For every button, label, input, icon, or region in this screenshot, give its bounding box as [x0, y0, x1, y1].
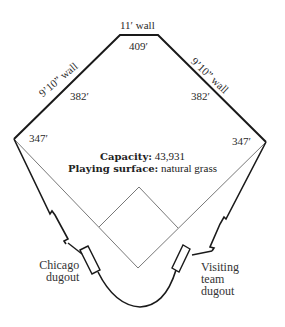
infield-diamond: [99, 187, 178, 228]
center-wall-height: 11′ wall: [120, 19, 155, 31]
surface-label: Playing surface:: [68, 163, 158, 174]
left-field-distance: 347′: [29, 132, 48, 144]
left-wall-connector: [68, 243, 82, 254]
home-dugout-label-line2: dugout: [39, 271, 79, 283]
backstop-wall: [98, 270, 176, 307]
left-center-distance: 382′: [70, 90, 89, 102]
right-field-distance: 347′: [232, 135, 251, 147]
surface-line: Playing surface: natural grass: [0, 162, 285, 175]
surface-value: natural grass: [161, 162, 217, 174]
visitor-dugout-label: Visiting team dugout: [201, 261, 239, 297]
home-dugout: [80, 246, 100, 274]
right-wall-connector: [192, 251, 212, 255]
home-dugout-label: Chicago dugout: [39, 259, 79, 283]
right-center-distance: 382′: [191, 90, 210, 102]
capacity-label: Capacity:: [100, 151, 152, 162]
visitor-dugout-label-line3: dugout: [201, 285, 239, 297]
center-field-distance: 409′: [129, 40, 148, 52]
visitor-dugout: [172, 245, 190, 272]
capacity-value: 43,931: [155, 150, 185, 162]
